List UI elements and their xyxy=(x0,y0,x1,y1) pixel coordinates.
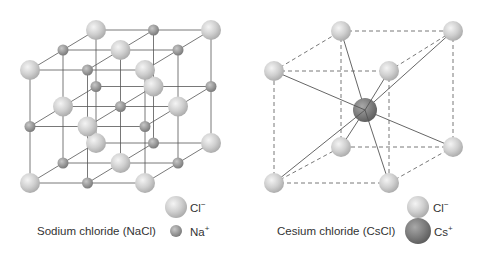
na-ion xyxy=(91,81,102,92)
cs-legend-ball xyxy=(405,218,431,244)
cl-ion xyxy=(20,173,40,193)
na-ion xyxy=(206,81,217,92)
cscl-legend-cs: Cs+ xyxy=(434,224,453,238)
na-ion xyxy=(82,178,93,189)
cl-ion xyxy=(443,137,463,157)
cscl-legend-cl: Cl− xyxy=(433,200,449,214)
cl-ion xyxy=(78,117,98,137)
nacl-legend-cl: Cl− xyxy=(190,200,206,214)
nacl-caption: Sodium chloride (NaCl) xyxy=(37,225,156,237)
cl-ion xyxy=(379,61,399,81)
cl-ion xyxy=(111,153,131,173)
na-legend-ball xyxy=(170,225,182,237)
nacl-lattice xyxy=(20,20,221,193)
cl-ion xyxy=(111,40,131,60)
cl-ion xyxy=(53,97,73,117)
na-ion xyxy=(140,121,151,132)
cl-ion xyxy=(135,173,155,193)
cl-ion xyxy=(264,173,284,193)
na-ion xyxy=(82,65,93,76)
na-ion xyxy=(148,25,159,36)
nacl-legend-na: Na+ xyxy=(190,224,209,238)
cscl-caption: Cesium chloride (CsCl) xyxy=(277,225,395,237)
cl-ion xyxy=(331,137,351,157)
na-ion xyxy=(58,158,69,169)
cl-ion xyxy=(331,21,351,41)
cl-legend-ball-cscl xyxy=(407,196,429,218)
cl-ion xyxy=(135,60,155,80)
na-ion xyxy=(173,158,184,169)
cl-ion xyxy=(20,60,40,80)
cscl-lattice xyxy=(264,21,463,193)
cl-legend-ball-nacl xyxy=(165,196,187,218)
na-ion xyxy=(115,101,126,112)
cl-ion xyxy=(86,20,106,40)
cl-ion xyxy=(168,97,188,117)
cl-ion xyxy=(443,21,463,41)
cl-ion xyxy=(379,173,399,193)
na-ion xyxy=(58,45,69,56)
crystal-diagrams xyxy=(0,0,480,255)
na-ion xyxy=(25,121,36,132)
na-ion xyxy=(148,138,159,149)
cl-ion xyxy=(264,61,284,81)
cl-ion xyxy=(201,133,221,153)
na-ion xyxy=(173,45,184,56)
cl-ion xyxy=(201,20,221,40)
